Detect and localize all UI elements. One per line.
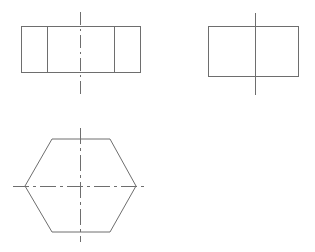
technical-drawing-canvas [0, 0, 315, 252]
side-view-rectangle [209, 27, 299, 77]
top-view [13, 128, 148, 242]
orthographic-drawing [0, 0, 315, 252]
side-view [209, 13, 299, 95]
front-view [22, 12, 141, 95]
front-view-rectangle [22, 27, 141, 73]
